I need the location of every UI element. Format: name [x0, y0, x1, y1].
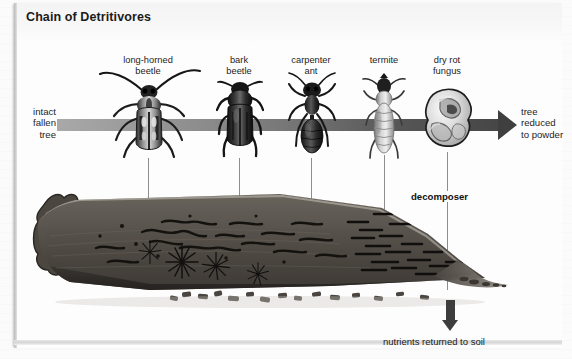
label-line: reduced — [521, 117, 571, 128]
long-horned-beetle-icon — [96, 60, 204, 160]
panel-left-edge — [14, 3, 17, 348]
detritivore-chain-figure: Chain of Detritivores long-horned beetle… — [0, 0, 572, 359]
label-tree-reduced-to-powder: tree reduced to powder — [521, 106, 571, 140]
nutrients-returned-to-soil-label: nutrients returned to soil — [383, 336, 485, 347]
decay-progress-arrowhead — [498, 110, 517, 140]
page-title: Chain of Detritivores — [26, 10, 151, 24]
label-line: intact — [14, 106, 56, 117]
nutrients-arrow-shaft — [446, 300, 455, 322]
label-line: fallen — [14, 117, 56, 128]
termite-icon — [362, 72, 406, 160]
nutrients-arrowhead — [442, 320, 458, 331]
dry-rot-fungus-icon — [420, 86, 476, 150]
caption-line: carpenter — [276, 55, 346, 66]
caption-dry-rot-fungus: dry rot fungus — [414, 55, 480, 76]
decomposer-label: decomposer — [408, 191, 471, 202]
caption-line: termite — [352, 55, 416, 66]
caption-line: bark — [206, 55, 272, 66]
bark-beetle-icon — [216, 72, 264, 158]
label-line: to powder — [521, 129, 571, 140]
caption-termite: termite — [352, 55, 416, 66]
caption-line: fungus — [414, 66, 480, 77]
label-intact-fallen-tree: intact fallen tree — [14, 106, 56, 140]
carpenter-ant-icon — [288, 70, 336, 162]
caption-line: dry rot — [414, 55, 480, 66]
label-line: tree — [14, 129, 56, 140]
label-line: tree — [521, 106, 571, 117]
